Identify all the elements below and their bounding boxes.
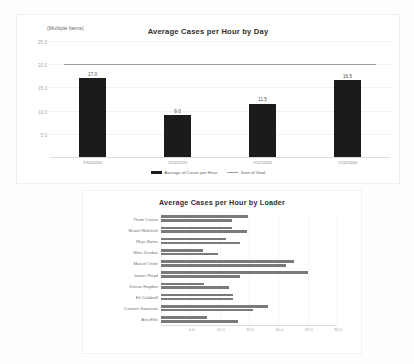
chart1-bar-value-label: 11.5 <box>258 97 267 102</box>
chart1-y-tick-label: 20.0 <box>38 63 47 68</box>
chart2-group-bars <box>161 213 337 222</box>
chart2-x-tick-label: 30.0 <box>334 327 342 332</box>
chart1-category-label: 7/11/2020 <box>135 160 220 165</box>
chart2-loader-group: Thom Castro <box>161 213 337 224</box>
chart1-bar-slot: 16.5 <box>305 41 390 157</box>
chart1-bar[interactable]: 17.0 <box>79 78 106 157</box>
chart2-bar[interactable] <box>161 294 233 297</box>
chart1-legend: Average of Cases per Hour Sum of Goal <box>17 170 399 175</box>
chart2-loader-name-label: Rhys Bates <box>136 238 158 243</box>
legend-label-average-cases: Average of Cases per Hour <box>164 170 217 175</box>
chart2-bar[interactable] <box>161 283 204 286</box>
chart2-bar[interactable] <box>161 305 268 308</box>
legend-label-sum-of-goal: Sum of Goal <box>241 170 265 175</box>
chart1-y-tick-label: 5.0 <box>41 132 47 137</box>
chart1-y-tick-label: 10.0 <box>38 109 47 114</box>
chart2-bar[interactable] <box>161 242 240 245</box>
chart2-group-bars <box>161 280 337 289</box>
chart1-bar[interactable]: 16.5 <box>334 80 361 157</box>
chart2-loader-group: Rhys Bates <box>161 235 337 246</box>
average-cases-per-hour-by-day-chart: (Multiple Items) Average Cases per Hour … <box>16 14 400 184</box>
legend-bar-swatch-icon <box>151 171 162 174</box>
chart2-x-tick-label: 5.0 <box>188 327 194 332</box>
chart1-bar[interactable]: 9.0 <box>164 115 191 157</box>
chart1-plot-area: 25.020.015.010.05.0 17.09.011.516.5 <box>50 41 390 157</box>
chart2-gridline: 30.0 <box>337 213 338 325</box>
chart2-x-axis <box>161 325 337 326</box>
chart2-x-tick-label: - <box>161 327 162 332</box>
chart2-bar[interactable] <box>161 230 247 233</box>
chart2-bar[interactable] <box>161 219 232 222</box>
chart2-title: Average Cases per Hour by Loader <box>83 198 361 207</box>
chart2-loader-name-label: Kieran Hayden <box>130 283 158 288</box>
chart2-x-tick-label: 25.0 <box>305 327 313 332</box>
chart2-x-tick-label: 15.0 <box>246 327 254 332</box>
chart2-plot-area: -5.010.015.020.025.030.0 Thom CastroShan… <box>161 213 337 325</box>
chart2-bar[interactable] <box>161 238 226 241</box>
chart1-category-label: 7/12/2020 <box>220 160 305 165</box>
chart2-group-bars <box>161 247 337 256</box>
chart2-loader-group: Carmen Swanson <box>161 303 337 314</box>
chart1-y-tick-label: 25.0 <box>38 40 47 45</box>
chart2-loader-name-label: Shanti Wolchek <box>128 227 158 232</box>
chart2-loader-name-label: Carmen Swanson <box>124 306 158 311</box>
chart2-loader-name-label: Eli Caldwell <box>136 294 158 299</box>
chart2-bar[interactable] <box>161 249 203 252</box>
chart2-group-bars <box>161 224 337 233</box>
chart2-loader-name-label: Thom Castro <box>133 216 158 221</box>
chart2-bar[interactable] <box>161 227 232 230</box>
chart2-loader-name-label: Niles Dunbar <box>133 250 158 255</box>
chart1-category-label: 7/14/2020 <box>305 160 390 165</box>
chart1-bar-slot: 17.0 <box>50 41 135 157</box>
pivot-filter-label: (Multiple Items) <box>47 25 84 31</box>
chart2-loader-group: Shanti Wolchek <box>161 224 337 235</box>
chart2-group-bars <box>161 291 337 300</box>
chart1-bar-slot: 11.5 <box>220 41 305 157</box>
chart2-group-bars <box>161 269 337 278</box>
chart1-bar-value-label: 16.5 <box>343 74 352 79</box>
chart2-bar[interactable] <box>161 264 286 267</box>
chart2-group-bars <box>161 314 337 323</box>
chart2-bar[interactable] <box>161 320 238 323</box>
chart2-bar[interactable] <box>161 215 248 218</box>
chart1-bar[interactable]: 11.5 <box>249 104 276 157</box>
chart2-loader-name-label: Marcel Orion <box>133 261 158 266</box>
chart2-loader-group: James Floyd <box>161 269 337 280</box>
chart2-bar[interactable] <box>161 286 229 289</box>
average-cases-per-hour-by-loader-chart: Average Cases per Hour by Loader -5.010.… <box>82 190 362 354</box>
chart2-loader-group: Eli Caldwell <box>161 291 337 302</box>
chart2-bar[interactable] <box>161 253 218 256</box>
chart2-bar[interactable] <box>161 275 240 278</box>
chart2-bar[interactable] <box>161 309 253 312</box>
chart1-bar-group: 17.09.011.516.5 <box>50 41 390 157</box>
chart2-loader-group: Aria Ellis <box>161 314 337 325</box>
chart2-x-tick-label: 20.0 <box>275 327 283 332</box>
chart2-group-bars <box>161 258 337 267</box>
chart2-loader-group: Marcel Orion <box>161 258 337 269</box>
chart1-category-label: 7/10/2020 <box>50 160 135 165</box>
legend-line-swatch-icon <box>227 172 238 173</box>
chart2-bar[interactable] <box>161 298 233 301</box>
chart2-bar[interactable] <box>161 271 308 274</box>
chart2-loader-name-label: Aria Ellis <box>141 317 158 322</box>
chart1-x-axis <box>50 157 390 158</box>
chart1-bar-slot: 9.0 <box>135 41 220 157</box>
chart2-loader-name-label: James Floyd <box>134 272 158 277</box>
chart2-loader-group: Niles Dunbar <box>161 247 337 258</box>
chart1-y-tick-label: 15.0 <box>38 86 47 91</box>
chart1-bar-value-label: 9.0 <box>174 109 180 114</box>
legend-item-sum-of-goal: Sum of Goal <box>227 170 265 175</box>
chart2-group-bars <box>161 235 337 244</box>
chart2-x-tick-label: 10.0 <box>217 327 225 332</box>
chart2-group-bars <box>161 303 337 312</box>
chart2-bar[interactable] <box>161 260 294 263</box>
chart1-category-labels: 7/10/20207/11/20207/12/20207/14/2020 <box>50 160 390 165</box>
chart1-bar-value-label: 17.0 <box>88 72 97 77</box>
chart2-loader-group: Kieran Hayden <box>161 280 337 291</box>
chart2-bar[interactable] <box>161 316 207 319</box>
legend-item-average-cases: Average of Cases per Hour <box>151 170 218 175</box>
